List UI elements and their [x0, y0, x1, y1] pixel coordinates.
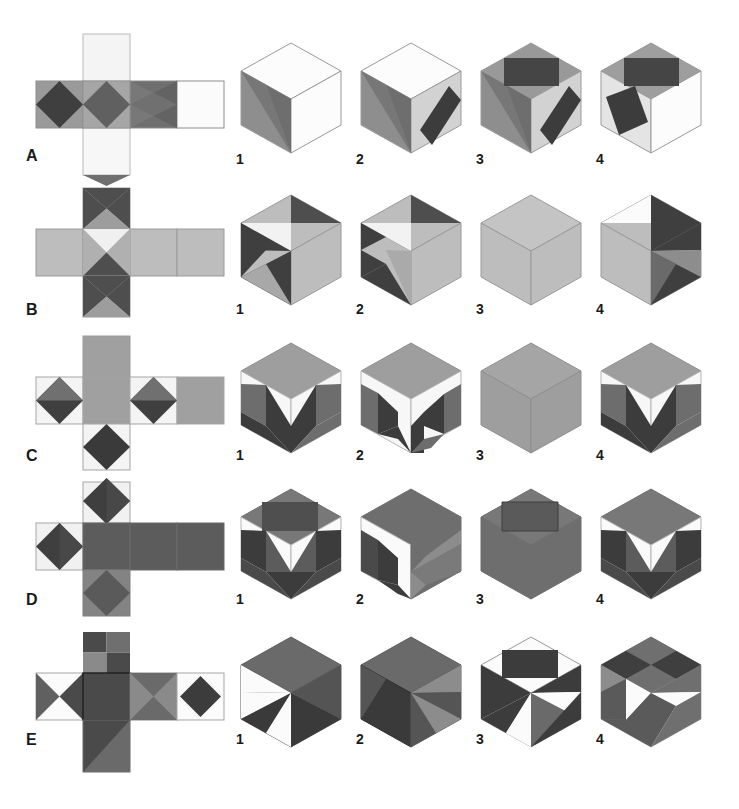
cube-d-2[interactable] — [356, 484, 476, 604]
net-e — [36, 632, 226, 777]
cube-d-2-label: 2 — [356, 592, 364, 606]
cube-e-2[interactable] — [356, 632, 476, 752]
puzzle-row-d: D — [0, 478, 739, 626]
cube-b-4-label: 4 — [596, 302, 604, 316]
cube-a-4-label: 4 — [596, 152, 604, 166]
cube-c-3-label: 3 — [476, 448, 484, 462]
cube-c-1-label: 1 — [236, 448, 244, 462]
cube-a-1[interactable] — [236, 38, 356, 158]
cube-b-3[interactable] — [476, 190, 596, 310]
puzzle-row-e: E — [0, 624, 739, 809]
cube-e-3-label: 3 — [476, 732, 484, 746]
cube-e-3[interactable] — [476, 632, 596, 752]
cube-a-4[interactable] — [596, 38, 716, 158]
cube-b-3-label: 3 — [476, 302, 484, 316]
cube-c-2[interactable] — [356, 338, 476, 458]
cube-d-4-label: 4 — [596, 592, 604, 606]
cube-e-4[interactable] — [596, 632, 716, 752]
cube-a-3-label: 3 — [476, 152, 484, 166]
net-c — [36, 336, 226, 471]
cube-e-4-label: 4 — [596, 732, 604, 746]
cube-c-3[interactable] — [476, 338, 596, 458]
cube-d-3-label: 3 — [476, 592, 484, 606]
puzzle-row-a: A — [0, 0, 739, 180]
cube-a-2[interactable] — [356, 38, 476, 158]
cube-d-3[interactable] — [476, 484, 596, 604]
cube-c-2-label: 2 — [356, 448, 364, 462]
net-a — [36, 30, 226, 190]
puzzle-sheet: A — [0, 0, 739, 809]
cube-b-2-label: 2 — [356, 302, 364, 316]
cube-b-2[interactable] — [356, 190, 476, 310]
puzzle-row-c: C — [0, 330, 739, 480]
cube-d-1[interactable] — [236, 484, 356, 604]
cube-e-1[interactable] — [236, 632, 356, 752]
cube-e-2-label: 2 — [356, 732, 364, 746]
cube-a-1-label: 1 — [236, 152, 244, 166]
cube-d-4[interactable] — [596, 484, 716, 604]
cube-b-4[interactable] — [596, 190, 716, 310]
puzzle-row-b: B — [0, 180, 739, 330]
cube-a-3[interactable] — [476, 38, 596, 158]
cube-c-4-label: 4 — [596, 448, 604, 462]
cube-c-4[interactable] — [596, 338, 716, 458]
cube-e-1-label: 1 — [236, 732, 244, 746]
cube-a-2-label: 2 — [356, 152, 364, 166]
cube-d-1-label: 1 — [236, 592, 244, 606]
cube-b-1-label: 1 — [236, 302, 244, 316]
cube-c-1[interactable] — [236, 338, 356, 458]
cube-b-1[interactable] — [236, 190, 356, 310]
net-d — [36, 482, 226, 617]
net-b — [36, 188, 226, 318]
